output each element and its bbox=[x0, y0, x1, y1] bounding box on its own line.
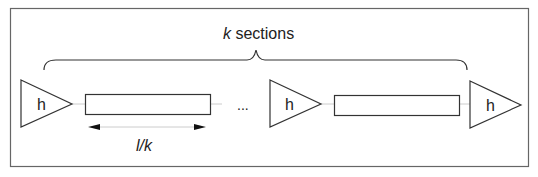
ellipsis: ... bbox=[237, 97, 249, 113]
repeater-label: h bbox=[37, 96, 46, 113]
repeater-chain-diagram: k sections h ... h h l/k bbox=[0, 0, 538, 177]
repeater-2: h bbox=[270, 80, 321, 127]
wire-section-2 bbox=[335, 96, 460, 116]
sections-text: sections bbox=[231, 25, 294, 42]
repeater-label: h bbox=[486, 97, 495, 114]
triangle-icon bbox=[470, 81, 521, 128]
curly-brace bbox=[44, 50, 467, 70]
arrow-right-icon bbox=[194, 124, 206, 130]
triangle-icon bbox=[21, 80, 72, 127]
wire-section-1 bbox=[86, 95, 211, 115]
triangle-icon bbox=[270, 80, 321, 127]
repeater-3: h bbox=[470, 81, 521, 128]
length-label: l/k bbox=[136, 137, 153, 154]
repeater-1: h bbox=[21, 80, 72, 127]
arrow-left-icon bbox=[88, 124, 100, 130]
length-dimension: l/k bbox=[88, 124, 206, 154]
sections-label: k sections bbox=[223, 25, 294, 42]
repeater-label: h bbox=[285, 96, 294, 113]
